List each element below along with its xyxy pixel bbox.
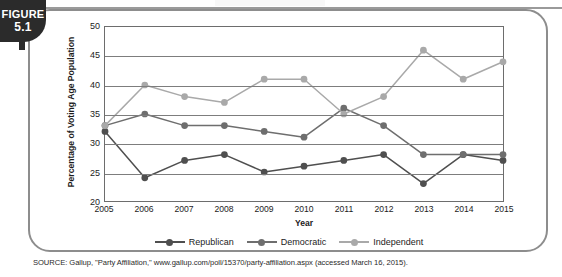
chart-area: Percentage of Voting Age Population 2025… (60, 22, 518, 210)
data-point-republican (380, 151, 387, 158)
legend-item-democratic[interactable]: Democratic (247, 237, 327, 247)
y-axis-tick-label: 35 (60, 109, 100, 119)
data-point-republican (102, 128, 109, 135)
legend-item-independent[interactable]: Independent (339, 237, 423, 247)
data-point-republican (420, 180, 427, 187)
legend-marker-icon (247, 237, 277, 247)
legend-marker-icon (339, 237, 369, 247)
y-axis-tick-label: 25 (60, 168, 100, 178)
data-point-democratic (340, 105, 347, 112)
data-point-republican (340, 157, 347, 164)
y-axis-tick-label: 40 (60, 80, 100, 90)
y-axis-tick-label: 30 (60, 138, 100, 148)
data-point-republican (301, 163, 308, 170)
gridline (105, 115, 503, 116)
data-point-independent (261, 76, 268, 83)
data-point-independent (181, 93, 188, 100)
cropped-title-remnant (215, 0, 325, 6)
y-axis-tick-label: 45 (60, 50, 100, 60)
data-point-republican (221, 151, 228, 158)
legend-label: Republican (189, 237, 234, 247)
x-axis-tick-label: 2006 (134, 204, 153, 214)
gridline (105, 144, 503, 145)
gridline (105, 86, 503, 87)
data-point-democratic (141, 111, 148, 118)
data-point-democratic (380, 122, 387, 129)
x-axis-tick-label: 2014 (454, 204, 473, 214)
data-point-democratic (221, 122, 228, 129)
legend-marker-icon (155, 237, 185, 247)
data-point-democratic (500, 151, 507, 158)
y-axis-tick-labels: 20253035404550 (60, 26, 100, 202)
data-point-democratic (301, 134, 308, 141)
data-point-independent (221, 99, 228, 106)
x-axis-tick-label: 2009 (254, 204, 273, 214)
x-axis-tick-labels: 2005200620072008200920102011201220132014… (104, 204, 504, 218)
data-point-republican (500, 157, 507, 164)
y-axis-tick-label: 50 (60, 21, 100, 31)
x-axis-tick-label: 2012 (374, 204, 393, 214)
gridline (105, 56, 503, 57)
data-point-independent (340, 111, 347, 118)
x-axis-tick-label: 2011 (335, 204, 353, 214)
figure-tab-number: 5.1 (14, 21, 31, 33)
data-point-independent (380, 93, 387, 100)
data-point-republican (181, 157, 188, 164)
x-axis-tick-label: 2007 (174, 204, 193, 214)
x-axis-tick-label: 2015 (494, 204, 513, 214)
plot-panel (104, 26, 504, 202)
x-axis-title: Year (104, 218, 504, 228)
data-point-democratic (261, 128, 268, 135)
data-point-democratic (420, 151, 427, 158)
source-note: SOURCE: Gallup, "Party Affiliation," www… (33, 258, 553, 267)
legend-label: Independent (373, 237, 423, 247)
data-point-independent (102, 122, 109, 129)
figure-page: FIGURE 5.1 Percentage of Voting Age Popu… (0, 0, 562, 277)
legend-item-republican[interactable]: Republican (155, 237, 234, 247)
x-axis-tick-label: 2010 (294, 204, 313, 214)
x-axis-tick-label: 2013 (414, 204, 433, 214)
legend-label: Democratic (281, 237, 327, 247)
data-point-republican (141, 174, 148, 181)
data-point-independent (460, 76, 467, 83)
data-point-democratic (460, 151, 467, 158)
data-point-democratic (181, 122, 188, 129)
chart-legend: RepublicanDemocraticIndependent (60, 234, 518, 250)
gridline (105, 174, 503, 175)
data-point-independent (500, 58, 507, 65)
x-axis-tick-label: 2008 (214, 204, 233, 214)
data-point-independent (301, 76, 308, 83)
figure-tab-word: FIGURE (2, 9, 45, 20)
series-lines-svg (105, 27, 503, 201)
x-axis-tick-label: 2005 (94, 204, 113, 214)
data-point-independent (420, 47, 427, 54)
figure-number-tab: FIGURE 5.1 (0, 0, 46, 42)
